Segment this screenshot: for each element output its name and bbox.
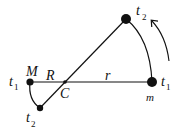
label-t2-top: t (136, 3, 141, 18)
label-t2-top-sub: 2 (142, 12, 147, 22)
label-C: C (60, 86, 70, 101)
mass-m-t2-dot (121, 14, 131, 24)
rotation-arrow-icon (152, 21, 169, 61)
arc-m (126, 19, 152, 82)
label-m: m (146, 91, 154, 103)
label-r: r (105, 68, 111, 83)
mass-M-t2-dot (37, 105, 43, 111)
arc-M (30, 82, 40, 108)
label-t1-left-sub: 1 (14, 82, 19, 92)
center-C-dot (63, 80, 67, 84)
mass-m-t1-dot (147, 77, 157, 87)
label-t2-bottom-sub: 2 (31, 119, 36, 129)
two-body-diagram: M R r C m t 1 t 1 t 2 t 2 (0, 0, 185, 133)
label-M: M (25, 64, 39, 79)
label-R: R (45, 68, 55, 83)
line-t2 (40, 19, 126, 108)
mass-M-t1-dot (26, 78, 33, 85)
label-t1-right-sub: 1 (166, 82, 171, 92)
